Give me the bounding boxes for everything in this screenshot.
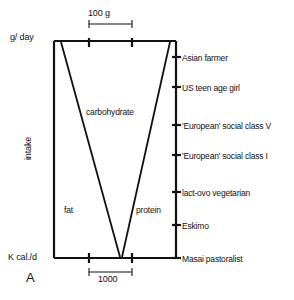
category-label-us-teen-age-girl: US teen age girl xyxy=(182,83,240,93)
segment-boundaries xyxy=(61,42,170,257)
y-axis-bottom-unit-label: K cal./d xyxy=(8,253,37,262)
segment-label-fat: fat xyxy=(64,206,73,215)
category-label-european-social-class-v: 'European' social class V xyxy=(182,121,271,131)
bottom-scale-bar xyxy=(89,253,132,276)
panel-label: A xyxy=(26,271,35,284)
category-label-eskimo: Eskimo xyxy=(182,221,209,231)
bottom-scale-label: 1000 xyxy=(98,275,117,284)
category-label-masai-pastoralist: Masai pastoralist xyxy=(182,254,242,264)
y-axis-top-unit-label: g/ day xyxy=(10,33,34,42)
carbohydrate-protein-boundary xyxy=(122,42,170,257)
category-label-asian-farmer: Asian farmer xyxy=(182,53,228,63)
top-scale-label: 100 g xyxy=(88,9,110,18)
top-scale-bar xyxy=(89,20,132,47)
segment-label-carbohydrate: carbohydrate xyxy=(86,108,134,117)
plot-frame xyxy=(54,41,176,258)
segment-label-protein: protein xyxy=(136,206,161,215)
category-label-european-social-class-i: 'European' social class I xyxy=(182,151,268,161)
fat-carbohydrate-boundary xyxy=(61,42,120,257)
y-axis-title: intake xyxy=(24,137,33,160)
category-label-lact-ovo-vegetarian: lact-ovo vegetarian xyxy=(182,188,250,198)
diet-composition-figure xyxy=(0,0,294,300)
